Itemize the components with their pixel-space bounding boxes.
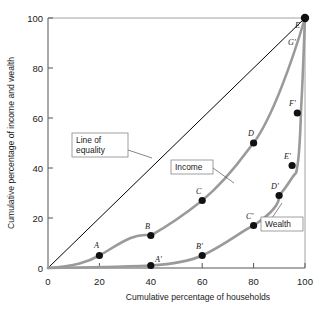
data-point-label-C-prime: C': [246, 212, 253, 221]
data-point-label-A: A: [93, 241, 100, 250]
x-tick-label-40: 40: [146, 276, 157, 287]
y-tick-label-40: 40: [32, 163, 43, 174]
y-axis-title: Cumulative percentage of income and weal…: [6, 57, 16, 229]
data-point-label-B-prime: B': [196, 242, 203, 251]
data-point-C-prime[interactable]: [250, 222, 257, 229]
data-point-label-B: B: [145, 222, 150, 231]
data-point-A-prime[interactable]: [147, 262, 154, 269]
data-point-B-prime[interactable]: [199, 252, 206, 259]
data-point-A[interactable]: [96, 252, 103, 259]
callout-wealth-label: Wealth: [265, 219, 291, 229]
data-point-label-G-prime: G': [288, 38, 296, 47]
leader-line-equality: [128, 150, 152, 158]
data-point-B[interactable]: [147, 232, 154, 239]
wealth-points: A' B' C' D' E' F' G': [147, 38, 301, 269]
data-point-label-E-prime: E': [283, 152, 291, 161]
y-tick-label-80: 80: [32, 63, 43, 74]
x-tick-label-80: 80: [248, 276, 259, 287]
x-tick-label-0: 0: [45, 276, 50, 287]
data-point-D[interactable]: [250, 139, 257, 146]
y-tick-label-0: 0: [38, 263, 43, 274]
data-point-label-D-prime: D': [270, 182, 279, 191]
data-point-F-prime[interactable]: [294, 109, 301, 116]
data-point-E[interactable]: [301, 14, 309, 22]
x-tick-label-60: 60: [197, 276, 208, 287]
data-point-label-A-prime: A': [154, 255, 162, 264]
data-point-label-C: C: [196, 187, 202, 196]
x-tick-label-20: 20: [94, 276, 105, 287]
callout-equality-line1: Line of: [76, 135, 102, 145]
data-point-label-E: E: [294, 21, 300, 30]
callout-equality-line2: equality: [76, 145, 106, 155]
callout-income-label: Income: [175, 162, 203, 172]
x-tick-label-100: 100: [297, 276, 313, 287]
x-axis-title: Cumulative percentage of households: [126, 292, 270, 302]
data-point-label-D: D: [247, 129, 254, 138]
y-tick-label-20: 20: [32, 213, 43, 224]
data-point-D-prime[interactable]: [276, 192, 283, 199]
lorenz-curve-chart: 100 80 60 40 20 0 0 20 40 60 80 100 Cumu…: [0, 0, 327, 310]
callout-wealth[interactable]: Wealth: [261, 203, 303, 231]
data-point-C[interactable]: [199, 197, 206, 204]
chart-svg: 100 80 60 40 20 0 0 20 40 60 80 100 Cumu…: [0, 0, 327, 310]
y-tick-label-100: 100: [27, 13, 43, 24]
callout-line-of-equality[interactable]: Line of equality: [72, 133, 152, 158]
y-tick-label-60: 60: [32, 113, 43, 124]
data-point-E-prime[interactable]: [289, 162, 296, 169]
y-tick-group: 100 80 60 40 20 0: [27, 13, 53, 274]
data-point-label-F-prime: F': [288, 99, 296, 108]
